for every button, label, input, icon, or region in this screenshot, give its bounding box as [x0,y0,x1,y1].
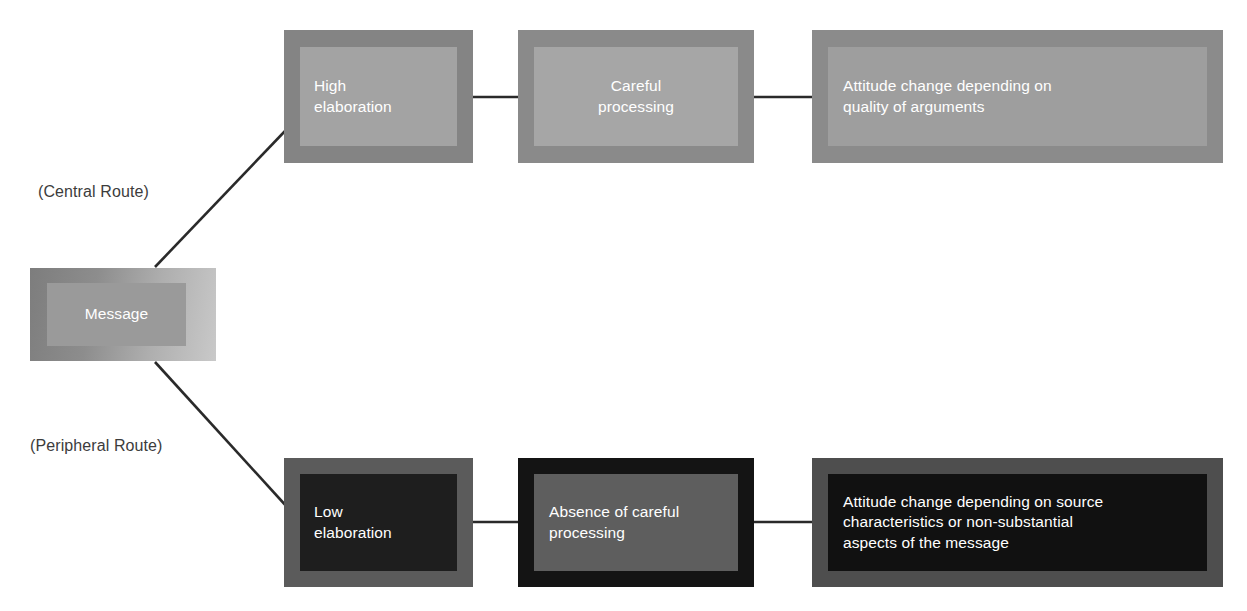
node-absence-of-careful-processing[interactable]: Absence of careful processing [518,458,754,587]
node-attitude-change-source-inner: Attitude change depending on source char… [828,474,1207,571]
node-careful-processing-inner: Careful processing [534,47,738,146]
node-attitude-change-source-label: Attitude change depending on source char… [843,492,1103,552]
node-high-elaboration-label: High elaboration [300,76,392,116]
route-label-peripheral: (Peripheral Route) [30,437,163,455]
node-absence-of-careful-processing-label: Absence of careful processing [549,502,679,542]
node-careful-processing[interactable]: Careful processing [518,30,754,163]
node-message-inner: Message [47,283,186,346]
node-absence-of-careful-processing-inner: Absence of careful processing [534,474,738,571]
diagram-canvas: Message (Central Route) (Peripheral Rout… [0,0,1247,611]
node-high-elaboration-inner: High elaboration [300,47,457,146]
node-attitude-change-quality[interactable]: Attitude change depending on quality of … [812,30,1223,163]
node-attitude-change-quality-inner: Attitude change depending on quality of … [828,47,1207,146]
route-label-central: (Central Route) [38,183,149,201]
node-low-elaboration-label: Low elaboration [300,502,392,542]
node-message-label: Message [47,304,186,324]
connector-message-to-low [155,362,288,508]
node-message[interactable]: Message [30,268,216,361]
node-high-elaboration[interactable]: High elaboration [284,30,473,163]
node-attitude-change-quality-label: Attitude change depending on quality of … [843,76,1052,116]
node-low-elaboration[interactable]: Low elaboration [284,458,473,587]
node-careful-processing-label: Careful processing [534,76,738,116]
connector-message-to-high [155,130,286,267]
node-low-elaboration-inner: Low elaboration [300,474,457,571]
node-attitude-change-source[interactable]: Attitude change depending on source char… [812,458,1223,587]
